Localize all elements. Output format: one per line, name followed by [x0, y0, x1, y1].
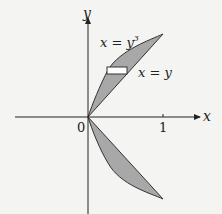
x-tick-label: 1 — [159, 120, 167, 135]
lower-region — [88, 117, 163, 199]
curve-label-cubic: x = y3 — [100, 34, 139, 50]
curve-label-line: x = y — [138, 65, 172, 80]
origin-label: 0 — [77, 120, 85, 135]
y-axis-label: y — [82, 5, 92, 21]
diagram: x y 0 1 x = y3 x = y — [0, 0, 222, 214]
strip-element — [107, 67, 127, 74]
x-axis-label: x — [203, 108, 211, 124]
